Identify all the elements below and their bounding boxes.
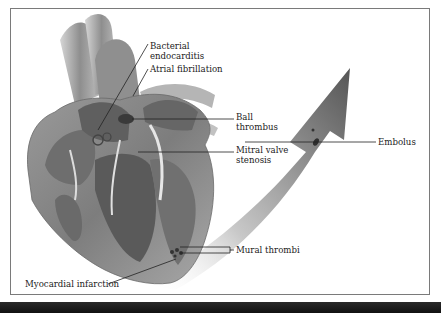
label-mural-thrombi: Mural thrombi [236,245,300,255]
heart-diagram [0,0,441,313]
label-mitral-valve-stenosis: Mitral valve stenosis [236,145,288,165]
label-line-2: thrombus [236,122,278,132]
label-ball-thrombus: Ball thrombus [236,112,278,132]
label-line-1: Ball [236,112,278,122]
heart-body [27,94,213,283]
label-line-2: stenosis [236,155,288,165]
label-embolus: Embolus [378,137,416,147]
label-myocardial-infarction: Myocardial infarction [25,279,119,289]
bottom-bar [0,302,441,313]
label-atrial-fibrillation: Atrial fibrillation [150,64,223,74]
label-bacterial-endocarditis: Bacterial endocarditis [150,41,204,61]
label-line-2: endocarditis [150,51,204,61]
label-line-1: Bacterial [150,41,204,51]
label-line-1: Mitral valve [236,145,288,155]
